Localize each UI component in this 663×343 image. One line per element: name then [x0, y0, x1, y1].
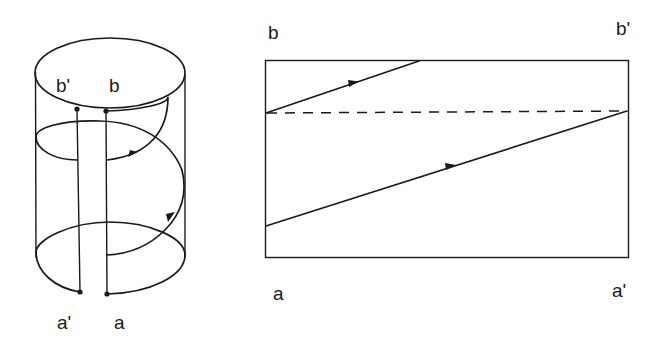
dashed-midline	[267, 111, 627, 113]
label-a-cylinder: a	[114, 312, 125, 333]
unrolled-rectangle-diagram: b b' a a'	[266, 18, 631, 304]
upper-path-segment	[266, 61, 419, 113]
seam-line-left	[77, 109, 80, 292]
unrolled-rectangle	[266, 61, 629, 258]
seam-line-right	[106, 111, 107, 294]
cylinder-bottom-front-right-arc	[107, 255, 185, 294]
point-a-dot	[104, 291, 109, 296]
point-b-prime-dot	[74, 106, 79, 111]
upper-segment-arrow	[348, 80, 359, 87]
label-a-rect: a	[273, 283, 284, 304]
helix-lower-turn	[107, 170, 184, 255]
label-b-rect: b	[268, 22, 279, 43]
point-a-prime-dot	[77, 289, 82, 294]
cylinder-bottom-front-left-arc	[36, 252, 80, 292]
cylinder-top-ellipse	[35, 38, 185, 108]
cylinder-diagram: b' b a' a	[35, 38, 185, 333]
cylinder-left-side	[36, 72, 37, 258]
label-b-cylinder: b	[109, 75, 120, 96]
label-b-prime-cylinder: b'	[56, 75, 70, 96]
label-a-prime-cylinder: a'	[57, 312, 71, 333]
cylinder-bottom-back-arc	[36, 222, 185, 255]
label-b-prime-rect: b'	[616, 18, 630, 39]
label-a-prime-rect: a'	[612, 280, 626, 301]
helix-middle-loop	[36, 121, 182, 170]
figure-canvas: b' b a' a b b' a a'	[0, 0, 663, 343]
